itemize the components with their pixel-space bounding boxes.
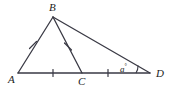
degree-symbol-icon: ° <box>125 63 127 69</box>
vertex-label-C: C <box>78 76 85 87</box>
tick-mark-bc <box>65 43 72 50</box>
segment-AB <box>18 17 53 73</box>
angle-arc-d <box>136 66 138 73</box>
angle-label-a: a° <box>120 62 127 74</box>
vertex-label-B: B <box>49 2 56 13</box>
geometry-canvas <box>0 0 172 92</box>
vertex-label-D: D <box>156 68 164 79</box>
vertex-label-A: A <box>8 74 15 85</box>
geometry-figure: A B C D a° <box>0 0 172 92</box>
